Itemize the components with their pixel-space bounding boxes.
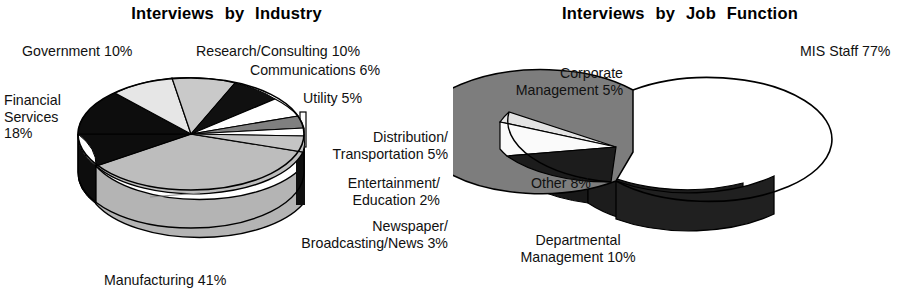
label-entertainment-education: Entertainment/ Education 2% xyxy=(150,175,440,208)
label-financial-services: Financial Services 18% xyxy=(4,92,61,142)
label-newspaper-broadcasting: Newspaper/ Broadcasting/News 3% xyxy=(150,218,448,251)
label-research-consulting: Research/Consulting 10% xyxy=(196,43,360,60)
label-departmental-management: Departmental Management 10% xyxy=(453,232,703,265)
label-utility: Utility 5% xyxy=(303,90,362,107)
label-communications: Communications 6% xyxy=(100,62,380,79)
pie-mis-outline xyxy=(616,77,832,201)
slice-side-mis-staff xyxy=(616,176,774,231)
two-pie-chart-figure: Interviews by Industry xyxy=(0,0,907,295)
label-government: Government 10% xyxy=(22,43,132,60)
label-mis-staff: MIS Staff 77% xyxy=(800,43,890,60)
label-other: Other 8% xyxy=(531,175,591,192)
chart-panel-jobfunction: Interviews by Job Function xyxy=(453,0,907,295)
label-corporate-management: Corporate Management 5% xyxy=(453,65,623,98)
label-distribution-transportation: Distribution/ Transportation 5% xyxy=(150,129,448,162)
label-manufacturing: Manufacturing 41% xyxy=(104,272,226,289)
chart-panel-industry: Interviews by Industry xyxy=(0,0,453,295)
